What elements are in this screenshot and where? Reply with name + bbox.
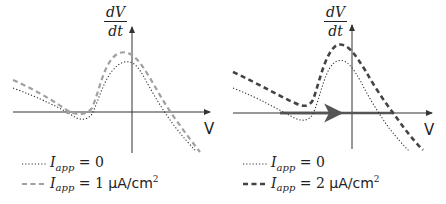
phase-plot-right: dV dt V Iapp = 0 Iapp = 2 μA/cm2 [223,0,446,204]
legend-sub: app [277,162,296,173]
legend-sub: app [56,182,75,193]
dotted-line-icon [243,162,269,166]
legend-equals: = 1 [79,175,104,191]
dotted-line-icon [22,162,48,166]
legend-equals: = 2 [300,175,325,191]
legend-sub: app [277,182,296,193]
legend-equals: = 0 [79,154,104,170]
legend-equals: = 0 [300,154,325,170]
legend-units: μA/cm [108,175,153,191]
curve-iapp-0 [13,62,196,151]
curve-iapp-0 [233,60,409,151]
dashed-line-icon [243,182,269,186]
x-axis-label: V [204,120,214,138]
fixed-point [66,110,70,114]
y-label-numerator: dV [324,4,347,22]
y-label-denominator: dt [324,22,347,39]
phase-plot-left: dV dt V Iapp = 0 Iapp = 1 μA/cm2 [0,0,223,204]
legend-units-sup: 2 [374,174,380,184]
legend-units: μA/cm [329,175,374,191]
curve-iapp-1 [13,52,200,152]
legend-units-sup: 2 [153,174,159,184]
y-label-denominator: dt [104,22,127,39]
y-axis-label: dV dt [324,4,347,39]
legend-sub: app [56,162,75,173]
dashed-line-icon [22,182,48,186]
curve-iapp-2 [233,45,423,150]
y-axis-label: dV dt [104,4,127,39]
y-label-numerator: dV [104,4,127,22]
x-axis-label: V [424,121,434,139]
